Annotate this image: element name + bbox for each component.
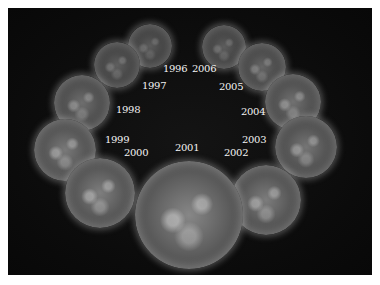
sun-2000 — [65, 158, 135, 228]
sun-2003 — [275, 116, 337, 178]
year-label-2002: 2002 — [224, 148, 248, 158]
sun-2001 — [135, 161, 243, 269]
year-label-2005: 2005 — [219, 82, 243, 92]
year-label-2000: 2000 — [124, 148, 148, 158]
year-label-1998: 1998 — [116, 105, 140, 115]
solar-cycle-photo: 1996199719981999200020012002200320042005… — [8, 8, 372, 275]
year-label-2006: 2006 — [192, 64, 216, 74]
sun-1997 — [94, 42, 140, 88]
year-label-1999: 1999 — [105, 135, 129, 145]
year-label-1997: 1997 — [142, 81, 166, 91]
year-label-2003: 2003 — [242, 135, 266, 145]
year-label-1996: 1996 — [163, 64, 187, 74]
year-label-2004: 2004 — [241, 107, 265, 117]
year-label-2001: 2001 — [175, 143, 199, 153]
